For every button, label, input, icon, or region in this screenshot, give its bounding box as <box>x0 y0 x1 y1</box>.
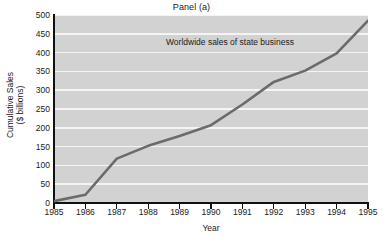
x-axis-tick-label: 1994 <box>320 208 354 217</box>
data-series-path <box>54 21 368 201</box>
data-series-line <box>54 15 368 203</box>
y-axis-title-line-2: ($ billions) <box>15 30 25 180</box>
y-axis-tick-label: 0 <box>0 199 50 208</box>
x-axis-tick-label: 1993 <box>288 208 322 217</box>
x-axis-tick-label: 1985 <box>37 208 71 217</box>
x-axis-tick-label: 1992 <box>257 208 291 217</box>
x-axis-tick-label: 1988 <box>131 208 165 217</box>
y-axis-tick-label: 50 <box>0 180 50 189</box>
x-axis-tick-label: 1986 <box>68 208 102 217</box>
x-axis-tick-label: 1989 <box>163 208 197 217</box>
x-axis-tick-label: 1991 <box>225 208 259 217</box>
chart-figure: Panel (a) 050100150200250300350400450500… <box>0 0 383 238</box>
y-axis-tick-label: 500 <box>0 11 50 20</box>
page-title: Panel (a) <box>0 2 383 12</box>
x-axis-title: Year <box>54 223 368 233</box>
x-axis-tick-label: 1987 <box>100 208 134 217</box>
x-axis-tick-label: 1990 <box>194 208 228 217</box>
y-axis-title: Cumulative Sales ($ billions) <box>5 30 25 180</box>
y-axis-title-line-1: Cumulative Sales <box>5 30 15 180</box>
x-axis-tick-label: 1995 <box>351 208 383 217</box>
